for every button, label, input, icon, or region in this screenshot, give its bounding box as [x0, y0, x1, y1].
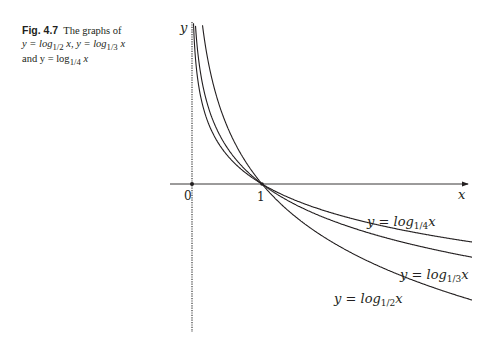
origin-point: [190, 182, 194, 186]
tick-label-0: 0: [184, 189, 192, 203]
x-axis-label: x: [458, 187, 466, 202]
chart-plot-area: y x 0 1 y = log1/4x y = log1/3x y = log1…: [0, 0, 486, 337]
curve-label-log-1-2: y = log1/2x: [333, 291, 403, 308]
y-axis-label: y: [179, 20, 188, 35]
curve-log-1-2: [203, 25, 473, 300]
curve-log-1-4: [194, 23, 473, 242]
curve-label-log-1-4: y = log1/4x: [366, 214, 436, 231]
curve-label-log-1-3: y = log1/3x: [399, 267, 469, 284]
tick-label-1: 1: [257, 190, 265, 204]
